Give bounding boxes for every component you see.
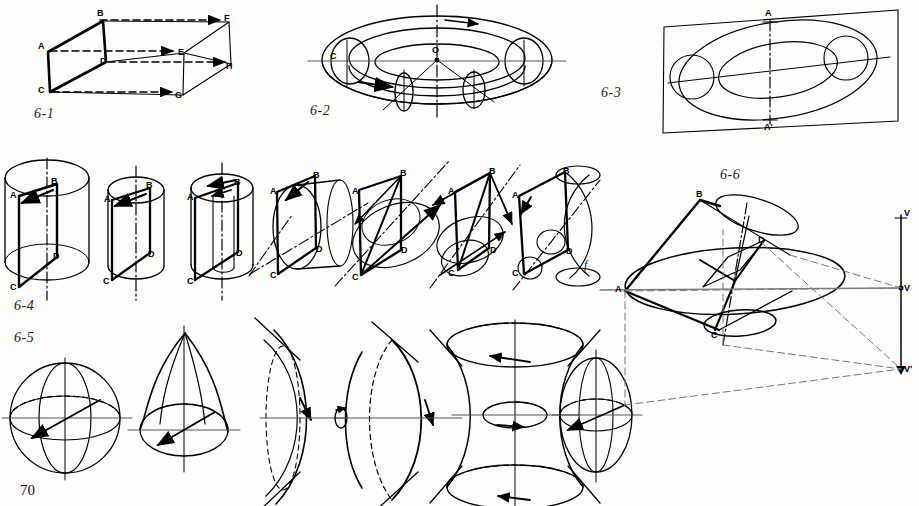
figure-caption-6-6: 6-6 [720,167,740,183]
point-label-6-1-G: G [175,90,182,100]
point-label-6-2-O: O [432,45,439,55]
vanishing-point-label-bottom: V' [904,364,912,374]
fig-6-4-step-a [5,158,89,300]
point-label-6-4d-C: C [270,270,277,280]
point-label-6-4b-B: B [146,180,153,190]
fig-6-5-paraboloid [128,326,240,472]
point-label-6-1-D: D [100,56,107,66]
vanishing-point-label-middle: V [904,283,910,293]
point-label-6-4d-B: B [313,170,320,180]
point-label-6-4e-B: B [400,168,407,178]
figure-artwork [0,0,919,506]
figure-6-3-art [663,7,898,133]
point-label-6-6-B: B [696,189,703,199]
figure-6-2-art [308,5,566,120]
fig-6-5-hyperboloid-two-sheets-right [336,322,462,506]
point-label-6-4d-A: A [270,186,277,196]
page-number: 70 [20,482,35,499]
figure-6-4-sublabel-f: f [584,258,587,273]
point-label-6-4g-C: C [512,268,519,278]
point-label-6-1-F: F [224,13,230,23]
point-label-6-4b-A: A [104,194,111,204]
point-label-6-4a-A: A [10,190,17,200]
point-label-6-4f-A: A [448,186,455,196]
point-label-6-4g-B: B [563,166,570,176]
point-label-6-3-A-prime: A' [764,122,773,132]
point-label-6-4c-D: D [236,248,243,258]
point-label-6-4a-B: B [51,176,58,186]
figure-caption-6-4: 6-4 [14,298,34,314]
figure-caption-6-3: 6-3 [601,85,621,101]
fig-6-5-hyperboloid-one-sheet [430,320,600,506]
point-label-6-1-H: H [226,61,233,71]
figure-6-4-art [5,158,600,300]
point-label-6-4g-D: D [566,246,573,256]
figure-caption-6-1: 6-1 [34,106,54,122]
point-label-6-2-C: C [330,51,337,61]
point-label-6-4b-C: C [103,276,110,286]
point-label-6-4f-C: C [448,268,455,278]
figure-caption-6-5: 6-5 [14,330,34,346]
point-label-6-4c-B: B [234,177,241,187]
point-label-6-4e-A: A [352,186,359,196]
figure-6-5-art [2,318,642,506]
fig-6-4-step-b [108,166,164,300]
point-label-6-1-B: B [97,8,104,18]
figure-6-6-art [600,186,907,405]
point-label-6-3-A: A [765,8,772,18]
point-label-6-4e-D: D [401,245,408,255]
point-label-6-4f-B: B [489,166,496,176]
point-label-6-1-E: E [178,47,184,57]
figure-6-1-art [48,20,231,95]
figure-caption-6-2: 6-2 [310,103,330,119]
point-label-6-4f-D: D [490,245,497,255]
point-label-6-4a-C: C [10,282,17,292]
textbook-page: 6-1 6-2 6-3 6-4 6-5 6-6 f A B C D E F G … [0,0,919,506]
point-label-6-6-A: A [615,284,622,294]
fig-6-5-hyperboloid-two-sheets-left [255,318,346,506]
point-label-6-4c-A: A [187,192,194,202]
point-label-6-1-A: A [38,41,45,51]
point-label-6-1-C: C [38,85,45,95]
vanishing-point-label-top: V [904,208,910,218]
point-label-6-4a-D: D [53,251,60,261]
point-label-6-6-C: C [711,330,718,340]
point-label-6-4e-C: C [352,272,359,282]
fig-6-4-step-f [430,165,520,288]
fig-6-5-sphere [2,358,132,480]
point-label-6-4d-D: D [316,244,323,254]
fig-6-4-step-d [250,176,368,274]
point-label-6-4b-D: D [148,249,155,259]
point-label-6-6-D: D [758,235,765,245]
point-label-6-4g-A: A [512,190,519,200]
point-label-6-4c-C: C [187,276,194,286]
fig-6-4-step-e [335,160,450,286]
fig-6-5-ellipsoid [552,350,642,482]
